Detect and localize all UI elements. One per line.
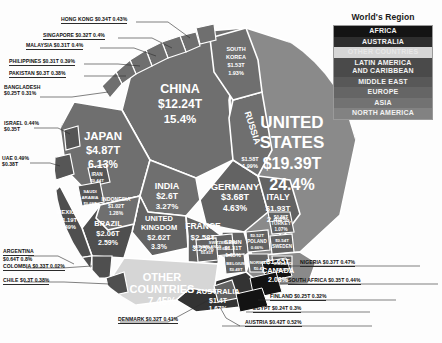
region-legend: World's Region AFRICA AUSTRALIA OTHER CO…: [333, 12, 433, 120]
label-germany-value: $3.68T: [221, 192, 250, 202]
label-iran-name: IRAN: [91, 172, 103, 177]
label-south-korea-value: $1.53T: [227, 62, 245, 68]
legend-row-north-america[interactable]: NORTH AMERICA: [334, 108, 432, 119]
label-uk-name2: KINGDOM: [141, 223, 177, 232]
label-canada-pct: 2.08%: [268, 276, 289, 283]
label-australia-pct: 1.67%: [209, 305, 228, 312]
label-sweden-name: SWEDEN: [272, 244, 293, 249]
label-turkey-value: $0.86T: [274, 215, 288, 220]
label-mexico-pct: 1.49%: [60, 224, 76, 230]
label-turkey-pct: 1.07%: [274, 227, 287, 232]
callout-hong-kong: HONG KONG $0.34T 0.43%: [61, 16, 127, 24]
cell-uae[interactable]: [52, 154, 74, 180]
label-france-name: FRANCE: [185, 221, 221, 231]
callout-south-africa: SOUTH AFRICA $0.35T 0.44%: [288, 277, 361, 285]
legend-row-other-countries[interactable]: OTHER COUNTRIES: [334, 47, 432, 58]
label-saudi-name2: ARABIA: [81, 195, 99, 200]
callout-uae: UAE 0.49%$0.38T: [2, 155, 29, 168]
label-united-states-name2: STATES: [260, 133, 325, 152]
cell-thailand[interactable]: [196, 24, 216, 44]
label-australia-value: $1.4T: [209, 297, 228, 305]
label-iran-value: $0.44T: [90, 178, 104, 183]
label-poland-name: POLAND: [247, 239, 267, 244]
label-brazil-value: $2.06T: [96, 229, 120, 238]
label-belgium-value: $0.49T: [229, 267, 242, 272]
label-india-value: $2.6T: [156, 191, 179, 201]
label-united-states-pct: 24.4%: [269, 176, 314, 193]
legend-row-europe[interactable]: EUROPE: [334, 87, 432, 98]
label-mexico-name: MEXICO: [56, 209, 80, 215]
legend-row-asia[interactable]: ASIA: [334, 98, 432, 109]
label-united-states-name: UNITED: [260, 113, 323, 132]
label-belgium-name: BELGIUM: [226, 261, 246, 266]
label-russia-value: $1.58T: [241, 156, 259, 162]
legend-box: AFRICA AUSTRALIA OTHER COUNTRIES LATIN A…: [333, 25, 433, 120]
label-sweden-value: $0.54T: [275, 238, 289, 243]
label-india-name: INDIA: [155, 181, 180, 191]
label-australia-name: AUSTRALIA: [196, 287, 240, 296]
label-japan-name: JAPAN: [84, 130, 122, 142]
label-china-value: $12.24T: [158, 97, 203, 111]
label-indonesia-pct: 1.28%: [109, 210, 124, 216]
callout-malaysia: MALAYSIA $0.31T 0.4%: [26, 42, 83, 50]
label-mexico-value: $1.19T: [59, 217, 78, 223]
callout-egypt: EGYPT $0.24T 0.3%: [253, 305, 301, 313]
label-china-name: CHINA: [160, 82, 200, 96]
label-ireland-name: IRELAND: [274, 261, 293, 266]
label-saudi-value: $0.68T: [83, 201, 96, 206]
label-norway-value: $0.4T: [254, 266, 265, 271]
label-china-pct: 15.4%: [164, 113, 197, 125]
label-norway-name: NORWAY: [250, 260, 269, 265]
label-uk-name: UNITED: [145, 214, 174, 223]
label-other-countries-name: OTHER: [143, 271, 182, 283]
label-saudi-name: SAUDI: [83, 189, 97, 194]
label-ireland-value: $0.33T: [276, 267, 289, 272]
label-spain-pct: 1.65%: [225, 252, 241, 258]
callout-israel: ISRAEL 0.44%$0.35T: [4, 120, 39, 133]
label-netherlands-name: NETHERLANDS: [193, 245, 222, 249]
cell-israel[interactable]: [64, 126, 80, 150]
label-poland-pct: 0.66%: [251, 245, 264, 250]
label-italy-value: $1.93T: [266, 204, 291, 213]
label-japan-pct: 6.13%: [88, 158, 118, 170]
callout-austria: AUSTRIA $0.42T 0.52%: [245, 319, 302, 327]
label-south-korea-name2: KOREA: [226, 54, 246, 60]
legend-row-latin-america[interactable]: LATIN AMERICA: [334, 58, 432, 67]
callout-singapore: SINGAPORE $0.32T 0.4%: [43, 32, 105, 40]
label-other-countries-pct: 7.45%: [148, 296, 176, 307]
callout-bangladesh: BANGLADESH$0.25T 0.31%: [4, 84, 40, 97]
label-indonesia-value: $1.02T: [108, 203, 125, 209]
legend-row-africa[interactable]: AFRICA: [334, 26, 432, 37]
legend-title: World's Region: [333, 12, 433, 22]
gdp-treemap-chart: UNITED STATES $19.39T 24.4% CHINA $12.24…: [0, 0, 442, 343]
legend-row-middle-east[interactable]: MIDDLE EAST: [334, 77, 432, 88]
label-indonesia-name: INDONESIA: [102, 196, 131, 202]
label-poland-value: $0.52T: [250, 233, 264, 238]
label-turkey-name: TURKEY: [271, 221, 292, 226]
callout-denmark: DENMARK $0.32T 0.41%: [118, 316, 178, 324]
label-india-pct: 3.27%: [156, 202, 179, 211]
legend-row-latin-america-2[interactable]: AND CARIBBEAN: [334, 67, 432, 77]
label-south-korea-pct: 1.93%: [228, 70, 244, 76]
label-japan-value: $4.87T: [86, 144, 121, 156]
label-russia-pct: 1.99%: [242, 163, 258, 169]
callout-pakistan: PAKISTAN $0.3T 0.38%: [9, 70, 66, 78]
label-brazil-name: BRAZIL: [94, 219, 122, 228]
callout-finland: FINLAND $0.25T 0.32%: [270, 293, 326, 301]
label-brazil-pct: 2.59%: [98, 239, 119, 246]
callout-chile: CHILE $0.3T 0.38%: [3, 277, 49, 285]
callout-philippines: PHILIPPINES $0.31T 0.39%: [9, 58, 75, 66]
label-uk-value: $2.62T: [147, 233, 171, 242]
label-united-states-value: $19.39T: [263, 155, 322, 172]
label-netherlands-value: $0.83T: [201, 250, 214, 255]
callout-argentina: ARGENTINA$0.64T 0.8%: [3, 248, 34, 262]
legend-row-australia[interactable]: AUSTRALIA: [334, 37, 432, 48]
label-germany-pct: 4.63%: [223, 203, 248, 213]
label-italy-name: ITALY: [266, 192, 289, 202]
label-germany-name: GERMANY: [211, 181, 260, 192]
cell-colombia[interactable]: [92, 256, 112, 278]
label-uk-pct: 3.3%: [151, 243, 168, 250]
label-other-countries-name2: COUNTRIES: [130, 283, 195, 295]
label-south-korea-name: SOUTH: [226, 46, 245, 52]
callout-colombia: COLOMBIA $0.33T 0.02%: [3, 263, 65, 271]
